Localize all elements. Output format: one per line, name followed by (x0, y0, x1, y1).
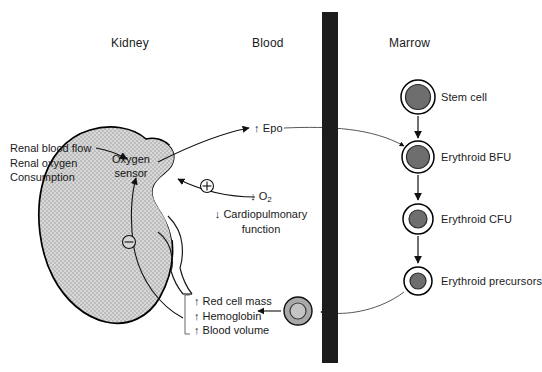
minus-sign-symbol (123, 236, 136, 249)
label-stem-cell: Stem cell (441, 91, 487, 103)
column-header-kidney: Kidney (111, 36, 149, 50)
label-erythroid-precursors: Erythroid precursors (441, 275, 542, 287)
marrow-lineage (401, 80, 435, 295)
line-epo-to-marrow (284, 127, 404, 146)
erythropoiesis-diagram: Kidney Blood Marrow Renal blood flow Ren… (0, 0, 542, 372)
renal-inputs-label: Renal blood flow Renal oxygen Consumptio… (10, 141, 91, 185)
hypoxia-line-3: function (186, 222, 336, 237)
cell-erythroid-cfu (403, 204, 433, 234)
label-erythroid-cfu: Erythroid CFU (441, 213, 512, 225)
hypoxia-line-2: ↓ Cardiopulmonary (186, 207, 336, 222)
column-header-marrow: Marrow (389, 36, 430, 50)
hypoxia-o2-text: ↓ O (250, 190, 267, 202)
ureter-tail-outer (180, 268, 192, 294)
oxygen-sensor-line-1: Oxygen (92, 152, 170, 166)
renal-input-line-1: Renal blood flow (10, 141, 91, 156)
hypoxia-label: ↓ O2 ↓ Cardiopulmonary function (186, 189, 336, 236)
oxygen-sensor-label: Oxygen sensor (92, 152, 170, 180)
erythropoiesis-outcomes-label: ↑ Red cell mass ↑ Hemoglobin ↑ Blood vol… (194, 294, 272, 338)
oxygen-sensor-line-2: sensor (92, 166, 170, 180)
outcome-line-1: ↑ Red cell mass (194, 294, 272, 309)
cell-erythroid-precursors (404, 267, 432, 295)
hypoxia-o2-subscript: 2 (267, 195, 271, 204)
red-blood-cell (284, 297, 312, 325)
blood-vessel-bar (322, 12, 338, 363)
outcome-line-2: ↑ Hemoglobin (194, 309, 272, 324)
ureter-tail-inner (171, 271, 183, 294)
cell-stem-cell (401, 80, 435, 114)
line-precursors-to-rbc (330, 292, 404, 313)
outcome-line-3: ↑ Blood volume (194, 323, 272, 338)
renal-input-line-3: Consumption (10, 170, 91, 185)
epo-label: ↑ Epo (254, 121, 283, 135)
outcomes-bracket (185, 295, 190, 334)
hypoxia-line-1: ↓ O2 (186, 189, 336, 207)
label-erythroid-bfu: Erythroid BFU (441, 151, 511, 163)
renal-input-line-2: Renal oxygen (10, 156, 91, 171)
cell-erythroid-bfu (402, 141, 434, 173)
column-header-blood: Blood (252, 36, 284, 50)
